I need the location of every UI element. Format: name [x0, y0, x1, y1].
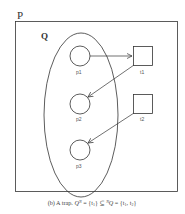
- place-p2: p2: [70, 94, 90, 122]
- place-circle: [70, 94, 90, 114]
- trap-diagram: P Q p1 p2 p3 t1 t2 (b) A trap. QN = {t1}…: [0, 0, 185, 214]
- place-label: p2: [76, 116, 82, 122]
- place-label: p1: [76, 69, 82, 75]
- net-boundary-box: [16, 22, 178, 192]
- transition-box: [134, 47, 153, 66]
- transition-t2: t2: [134, 95, 153, 123]
- place-p1: p1: [70, 46, 90, 75]
- place-label: p3: [76, 163, 82, 169]
- place-p3: p3: [70, 140, 90, 169]
- transition-label: t1: [140, 69, 144, 75]
- transition-box: [134, 95, 153, 114]
- figure-caption: (b) A trap. QN = {t1} ⊆ NQ = {t1, t2}: [48, 199, 137, 208]
- place-circle: [70, 140, 90, 160]
- set-label-q: Q: [41, 31, 48, 41]
- transition-t1: t1: [134, 47, 153, 76]
- arc-t1-p2: [88, 65, 134, 97]
- place-circle: [70, 46, 90, 66]
- arc-t2-p3: [88, 113, 134, 143]
- net-label-p: P: [17, 9, 23, 21]
- transition-label: t2: [140, 116, 144, 122]
